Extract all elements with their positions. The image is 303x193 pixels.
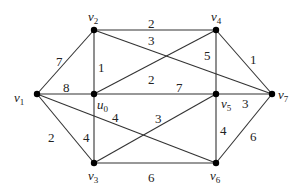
edge-weight-v2-v7: 3: [148, 33, 155, 48]
node-v4: [213, 27, 219, 33]
edge-weight-v4-v5: 5: [204, 48, 211, 63]
node-v3: [91, 160, 97, 166]
edge-v1-v3: [37, 94, 94, 163]
node-label-u0: u0: [97, 97, 109, 114]
edge-weight-v5-v6: 4: [220, 123, 227, 138]
node-label-v1: v1: [14, 90, 24, 107]
edge-weight-v5-v7: 3: [242, 96, 249, 111]
node-label-v3: v3: [88, 168, 99, 185]
edge-weight-v3-v6: 6: [148, 170, 155, 185]
node-label-v4: v4: [211, 9, 222, 26]
graph-diagram: 78242312743651346 v1v2u0v4v5v7v3v6: [0, 0, 303, 193]
edge-weight-v4-v7: 1: [250, 52, 257, 67]
node-v6: [213, 160, 219, 166]
node-v7: [269, 91, 275, 97]
edge-weight-v2-v4: 2: [148, 16, 155, 31]
edge-v3-v5: [94, 94, 216, 163]
node-v2: [91, 27, 97, 33]
edges-layer: [37, 30, 272, 163]
edge-v2-v7: [94, 30, 272, 94]
edge-weight-v1-v3: 2: [48, 130, 55, 145]
edge-weight-u0-v3: 4: [83, 130, 90, 145]
edge-weight-v1-v6: 4: [112, 110, 119, 125]
node-v1: [34, 91, 40, 97]
edge-weight-v3-v5: 3: [155, 111, 162, 126]
edge-weight-v1-u0: 8: [63, 80, 70, 95]
node-label-v7: v7: [278, 87, 289, 104]
node-label-v2: v2: [88, 9, 98, 26]
edge-u0-v4: [94, 30, 216, 94]
edge-weight-u0-v4: 2: [148, 72, 155, 87]
node-v5: [213, 91, 219, 97]
edge-weight-u0-v5: 7: [176, 80, 183, 95]
edge-weight-v2-u0: 1: [98, 60, 105, 75]
edge-weight-v6-v7: 6: [250, 129, 257, 144]
node-label-v6: v6: [210, 168, 221, 185]
edge-v1-v6: [37, 94, 216, 163]
node-label-v5: v5: [221, 96, 232, 113]
edge-weight-v1-v2: 7: [56, 54, 63, 69]
